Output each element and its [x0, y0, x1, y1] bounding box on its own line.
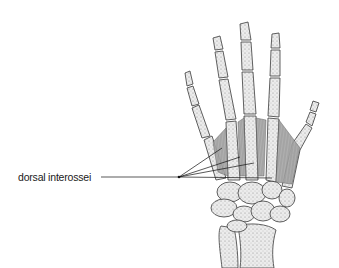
hand-skeleton-illustration — [0, 0, 339, 268]
phalanges-index-finger — [268, 33, 280, 117]
phalanges-little-finger — [185, 71, 210, 138]
phalanges-middle-finger — [240, 22, 256, 114]
phalanges-thumb — [306, 101, 319, 126]
label-dorsal-interossei: dorsal interossei — [18, 170, 91, 184]
forearm-bones — [219, 224, 276, 268]
phalanges-ring-finger — [213, 36, 236, 120]
hand-anatomy-diagram: dorsal interossei — [0, 0, 339, 268]
